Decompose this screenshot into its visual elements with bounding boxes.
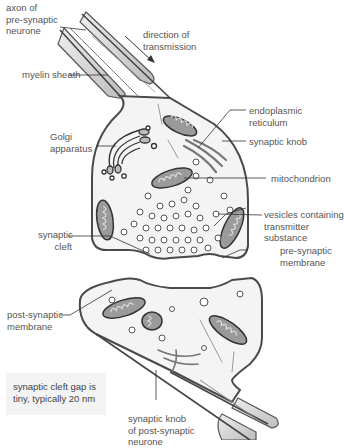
- label-post-knob-line3: neurone: [128, 436, 195, 448]
- label-cleft-line2: cleft: [38, 241, 72, 253]
- label-mitochondrion: mitochondrion: [271, 173, 331, 185]
- label-synaptic-cleft: synaptic cleft: [38, 229, 72, 252]
- label-er-line1: endoplasmic: [249, 105, 302, 117]
- label-vesicles-line1: vesicles containing: [264, 209, 344, 221]
- label-golgi-line1: Golgi: [50, 131, 92, 143]
- label-synaptic-knob: synaptic knob: [249, 136, 307, 148]
- label-direction-line2: transmission: [143, 41, 196, 53]
- label-axon-line1: axon of: [6, 2, 58, 14]
- note-line1: synaptic cleft gap is: [13, 381, 106, 393]
- label-vesicles: vesicles containing transmitter substanc…: [264, 209, 344, 244]
- label-direction: direction of transmission: [143, 29, 196, 52]
- label-post-synaptic-membrane: post-synaptic membrane: [7, 309, 63, 332]
- label-direction-line1: direction of: [143, 29, 196, 41]
- label-post-synaptic-knob: synaptic knob of post-synaptic neurone: [128, 413, 195, 448]
- label-pre-membrane-line2: membrane: [280, 257, 332, 269]
- label-er: endoplasmic reticulum: [249, 105, 302, 128]
- label-golgi: Golgi apparatus: [50, 131, 92, 154]
- label-post-membrane-line1: post-synaptic: [7, 309, 63, 321]
- label-axon-line3: neurone: [6, 25, 58, 37]
- synaptic-cleft-note: synaptic cleft gap is tiny, typically 20…: [6, 373, 106, 415]
- label-axon-line2: pre-synaptic: [6, 14, 58, 26]
- label-vesicles-line2: transmitter: [264, 221, 344, 233]
- label-pre-synaptic-membrane: pre-synaptic membrane: [280, 245, 332, 268]
- note-line2: tiny, typically 20 nm: [13, 393, 106, 405]
- label-axon: axon of pre-synaptic neurone: [6, 2, 58, 37]
- label-vesicles-line3: substance: [264, 232, 344, 244]
- label-post-membrane-line2: membrane: [7, 321, 63, 333]
- label-pre-membrane-line1: pre-synaptic: [280, 245, 332, 257]
- label-myelin-sheath: myelin sheath: [22, 69, 81, 81]
- label-post-knob-line2: of post-synaptic: [128, 425, 195, 437]
- label-er-line2: reticulum: [249, 117, 302, 129]
- label-cleft-line1: synaptic: [38, 229, 72, 241]
- label-golgi-line2: apparatus: [50, 143, 92, 155]
- label-post-knob-line1: synaptic knob: [128, 413, 195, 425]
